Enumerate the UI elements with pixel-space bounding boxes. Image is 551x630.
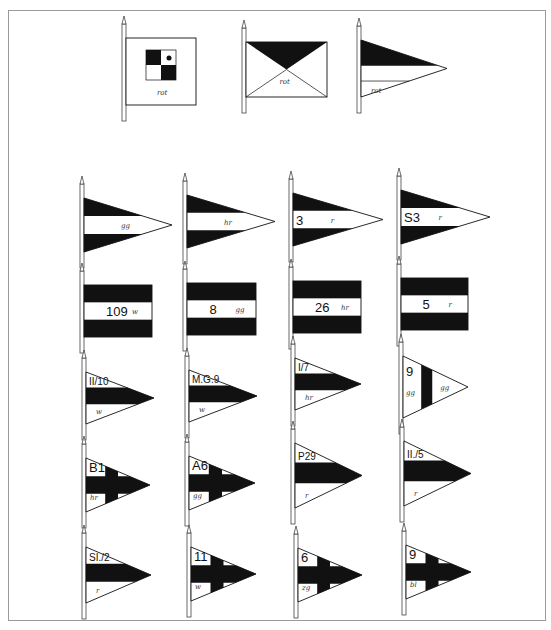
flagpole	[289, 267, 293, 349]
flag-number: B1	[89, 460, 105, 475]
flagpole	[291, 429, 295, 524]
flagpole	[82, 533, 86, 619]
pole-finial	[402, 523, 406, 531]
flagpole	[291, 344, 295, 426]
tri-pennant-flag: 3r	[289, 171, 383, 262]
color-label: gg	[406, 389, 415, 397]
color-label: hr	[224, 219, 233, 227]
tri-flag-flag: 26hr	[289, 259, 361, 349]
vband-pennant-flag: 9gggg	[399, 334, 468, 434]
pole-finial	[289, 171, 293, 179]
band-pennant-flag: I/7hr	[291, 336, 361, 426]
color-label: rot	[157, 89, 168, 97]
tri-flag-flag: 8gg	[183, 261, 256, 351]
color-label: w	[132, 308, 138, 316]
flag-number: P29	[298, 451, 316, 462]
band-pennant-flag: P29r	[291, 421, 362, 524]
color-label: gg	[193, 492, 202, 500]
emblem-icon	[167, 56, 172, 61]
flagpole	[397, 264, 401, 346]
checker-flag: rot	[122, 16, 196, 121]
cross-pennant-flag: B1hr	[82, 436, 150, 528]
color-label: rot	[280, 78, 291, 86]
tri-flag-flag: 109w	[80, 263, 152, 353]
flagpole	[357, 26, 361, 113]
band-pennant-flag: SI./2r	[82, 525, 151, 619]
pole-finial	[397, 168, 401, 176]
flagpole	[80, 184, 84, 268]
flagpole	[289, 179, 293, 262]
pole-finial	[357, 18, 361, 26]
flagpole	[397, 176, 401, 260]
flag-number: I/7	[298, 362, 310, 373]
flag-number: M.G.9	[192, 374, 220, 385]
flag-number: 5	[423, 297, 430, 312]
color-label: hr	[305, 394, 314, 402]
color-label: hr	[90, 494, 99, 502]
tri-pennant-flag: hr	[183, 173, 275, 264]
flag-number: 11	[194, 549, 208, 564]
color-label: rot	[371, 87, 382, 95]
flagpole	[122, 24, 126, 121]
pole-finial	[80, 176, 84, 184]
color-label: hr	[341, 304, 350, 312]
band-pennant-flag: II/10w	[82, 350, 154, 440]
cross-pennant-flag: 11w	[187, 525, 256, 617]
flag-number: 109	[106, 304, 128, 319]
band-pennant-flag: M.G.9w	[185, 348, 257, 438]
flag-number: A6	[192, 458, 208, 473]
flagpole	[400, 427, 404, 522]
flagpole	[187, 533, 191, 617]
pole-finial	[183, 173, 187, 181]
color-label: w	[195, 583, 201, 591]
saltire-flag: rot	[242, 20, 327, 113]
color-label-fly: gg	[440, 384, 449, 392]
pole-finial	[294, 526, 298, 534]
tri-flag-flag: 5r	[397, 256, 468, 346]
flagpole	[242, 28, 246, 113]
flag-number: 26	[315, 300, 329, 315]
flagpole	[80, 271, 84, 353]
split-pennant: rot	[357, 18, 447, 113]
pole-finial	[122, 16, 126, 24]
color-label: w	[199, 406, 205, 414]
flag-number: SI./2	[89, 552, 110, 563]
flagpole	[185, 356, 189, 438]
pole-finial	[242, 20, 246, 28]
flagpole	[183, 269, 187, 351]
flagpole	[402, 531, 406, 615]
color-label: gg	[121, 222, 130, 230]
flag-number: S3	[404, 210, 420, 225]
flag-number: 8	[210, 302, 217, 317]
flag-plate: rotrotrotgghr3rS3r109w8gg26hr5rII/10wM.G…	[0, 0, 551, 630]
color-label: w	[96, 408, 102, 416]
flag-number: II/10	[89, 376, 109, 387]
flagpole	[82, 358, 86, 440]
cross-pennant-flag: 9bl	[402, 523, 471, 615]
tri-pennant-flag: gg	[80, 176, 172, 268]
flagpole	[82, 444, 86, 528]
color-label: bl	[410, 581, 417, 589]
band-pennant-flag: II./5r	[400, 419, 471, 522]
flagpole	[183, 181, 187, 264]
tri-pennant-flag: S3r	[397, 168, 490, 260]
color-label: gg	[236, 306, 245, 314]
flag-number: II./5	[407, 449, 424, 460]
flagpole	[185, 442, 189, 526]
flag-number: 6	[301, 550, 308, 565]
flag-number: 3	[296, 213, 303, 228]
flag-number: 9	[406, 364, 413, 379]
flag-number: 9	[409, 547, 416, 562]
color-label: zg	[301, 584, 311, 592]
flagpole	[294, 534, 298, 618]
cross-pennant-flag: A6gg	[185, 434, 255, 526]
cross-pennant-flag: 6zg	[294, 526, 362, 618]
